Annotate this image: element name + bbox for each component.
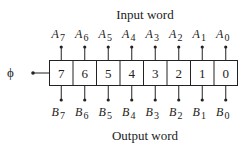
input-pin-label: A6	[74, 27, 88, 43]
register-diagram: Input word Output word ϕ 76543210 A7A6A5…	[0, 0, 249, 154]
cell-bit-label: 2	[176, 66, 183, 81]
output-pin-label: B5	[99, 105, 112, 121]
output-pin-label: B6	[75, 105, 88, 121]
input-pin-label: A4	[121, 27, 135, 43]
output-word-title: Output word	[112, 128, 179, 143]
input-pin-label: A1	[192, 27, 206, 43]
input-pins: A7A6A5A4A3A2A1A0	[51, 27, 230, 61]
output-pin-label: B4	[122, 105, 135, 121]
input-pin-dot	[107, 45, 110, 48]
output-pin-label: B3	[146, 105, 159, 121]
output-pin-dot	[154, 98, 157, 101]
output-pin-dot	[60, 98, 63, 101]
output-pin-label: B2	[169, 105, 182, 121]
output-pins: B7B6B5B4B3B2B1B0	[52, 86, 230, 122]
cell-bit-label: 6	[82, 66, 89, 81]
cell-bit-label: 0	[223, 66, 230, 81]
input-pin-dot	[224, 45, 227, 48]
output-pin-dot	[130, 98, 133, 101]
input-pin-label: A2	[168, 27, 182, 43]
cell-bit-label: 3	[152, 66, 159, 81]
input-pin-dot	[177, 45, 180, 48]
input-pin-dot	[154, 45, 157, 48]
output-pin-dot	[201, 98, 204, 101]
input-pin-label: A0	[215, 27, 229, 43]
output-pin-dot	[83, 98, 86, 101]
input-word-title: Input word	[116, 7, 174, 22]
cell-bit-label: 5	[105, 66, 112, 81]
cell-bit-label: 1	[199, 66, 206, 81]
input-pin-label: A5	[98, 27, 112, 43]
output-pin-label: B0	[216, 105, 229, 121]
output-pin-dot	[107, 98, 110, 101]
input-pin-dot	[83, 45, 86, 48]
input-pin-dot	[201, 45, 204, 48]
cell-bit-label: 7	[58, 66, 65, 81]
output-pin-dot	[224, 98, 227, 101]
output-pin-label: B1	[193, 105, 206, 121]
input-pin-label: A3	[145, 27, 159, 43]
clock-label: ϕ	[7, 65, 14, 80]
cell-bit-label: 4	[129, 66, 136, 81]
output-pin-label: B7	[52, 105, 65, 121]
input-pin-dot	[60, 45, 63, 48]
input-pin-label: A7	[51, 27, 65, 43]
output-pin-dot	[177, 98, 180, 101]
input-pin-dot	[130, 45, 133, 48]
